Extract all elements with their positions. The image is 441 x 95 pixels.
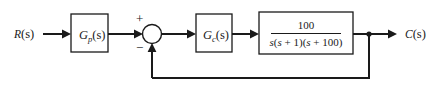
- input-signal-var: R: [13, 28, 21, 40]
- control-block-diagram: + − Gp(s) Gc(s) 100 s(s + 1)(s + 100) R(…: [0, 0, 441, 95]
- controller-label-var: G: [203, 28, 212, 42]
- den-part-3: + 1)(: [282, 36, 307, 49]
- arrowhead-plant-input: [250, 30, 259, 39]
- input-signal-label: R(s): [13, 27, 34, 41]
- wire-sum-to-controller: [161, 30, 196, 39]
- block-diagram-container: + − Gp(s) Gc(s) 100 s(s + 1)(s + 100) R(…: [0, 0, 441, 95]
- wire-prefilter-to-sum: [108, 30, 143, 39]
- arrowhead-output: [388, 30, 397, 39]
- wire-plant-to-output: [353, 30, 397, 39]
- wire-input-to-prefilter: [43, 30, 71, 39]
- output-signal-arg: (s): [413, 27, 426, 41]
- plant-transfer-numerator: 100: [298, 19, 315, 31]
- prefilter-block-label: Gp(s): [79, 28, 105, 44]
- arrowhead-input: [62, 30, 71, 39]
- summing-junction-minus-sign: −: [136, 40, 143, 55]
- plant-block[interactable]: 100 s(s + 1)(s + 100): [259, 12, 353, 54]
- arrowhead-controller-input: [187, 30, 196, 39]
- controller-block[interactable]: Gc(s): [196, 14, 232, 52]
- wire-controller-to-plant: [232, 30, 259, 39]
- controller-label-arg: (s): [216, 28, 229, 42]
- summing-junction-plus-sign: +: [136, 11, 143, 26]
- prefilter-block[interactable]: Gp(s): [71, 14, 108, 52]
- arrowhead-feedback-into-sum: [148, 43, 157, 52]
- controller-block-label: Gc(s): [203, 28, 229, 44]
- arrowhead-sum-input: [134, 30, 143, 39]
- den-part-5: + 100): [311, 36, 343, 49]
- plant-transfer-denominator: s(s + 1)(s + 100): [270, 36, 343, 49]
- output-signal-label: C(s): [405, 27, 426, 41]
- input-signal-arg: (s): [21, 27, 34, 41]
- prefilter-label-var: G: [79, 28, 88, 42]
- output-takeoff-node: [366, 31, 371, 36]
- prefilter-label-arg: (s): [92, 28, 105, 42]
- summing-junction: [143, 25, 162, 44]
